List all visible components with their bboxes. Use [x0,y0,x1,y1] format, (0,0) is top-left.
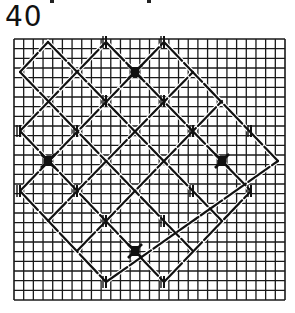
stitch-diagram [0,0,295,313]
dark-cross-stitches [41,65,229,258]
